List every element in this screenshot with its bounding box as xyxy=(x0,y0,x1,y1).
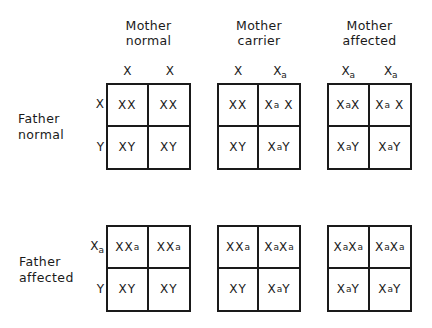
punnett-square: XaXXa XXaYXaY xyxy=(327,83,412,170)
column-title-1: Mother carrier xyxy=(204,18,314,48)
offspring-genotype-cell: XY xyxy=(149,127,190,169)
maternal-allele: X xyxy=(112,64,142,78)
column-title-2: Mother affected xyxy=(315,18,425,48)
offspring-genotype-cell: XaY xyxy=(329,269,370,311)
maternal-allele: Xa xyxy=(265,64,295,82)
paternal-allele: Xa xyxy=(88,239,104,257)
paternal-allele: Y xyxy=(88,282,104,296)
punnett-square: XXXXXYXY xyxy=(106,83,191,170)
paternal-allele: Y xyxy=(88,140,104,154)
column-title-line1: Mother xyxy=(204,18,314,33)
row-title-line2: normal xyxy=(18,127,64,143)
punnett-square: XaXaXaXaXaYXaY xyxy=(327,225,412,312)
offspring-genotype-cell: XaXa xyxy=(370,227,411,269)
offspring-genotype-cell: XaY xyxy=(370,127,411,169)
offspring-genotype-cell: XaY xyxy=(329,127,370,169)
paternal-allele: X xyxy=(88,97,104,111)
maternal-allele: Xa xyxy=(376,64,406,82)
row-title-1: Father affected xyxy=(19,254,74,286)
maternal-allele: X xyxy=(155,64,185,78)
offspring-genotype-cell: XY xyxy=(108,269,149,311)
punnett-square: XXaXaXaXYXaY xyxy=(217,225,301,312)
offspring-genotype-cell: Xa X xyxy=(370,85,411,127)
offspring-genotype-cell: XaY xyxy=(259,269,299,311)
column-title-line1: Mother xyxy=(94,18,204,33)
offspring-genotype-cell: XY xyxy=(219,269,259,311)
column-title-line2: carrier xyxy=(204,33,314,48)
offspring-genotype-cell: XaY xyxy=(259,127,299,169)
offspring-genotype-cell: XXa xyxy=(149,227,190,269)
row-title-line2: affected xyxy=(19,270,74,286)
row-title-line1: Father xyxy=(19,254,74,270)
offspring-genotype-cell: XY xyxy=(149,269,190,311)
punnett-square: XXXa XXYXaY xyxy=(217,83,301,170)
column-title-0: Mother normal xyxy=(94,18,204,48)
offspring-genotype-cell: XaY xyxy=(370,269,411,311)
offspring-genotype-cell: XXa xyxy=(219,227,259,269)
row-title-0: Father normal xyxy=(18,111,64,143)
offspring-genotype-cell: XY xyxy=(219,127,259,169)
offspring-genotype-cell: Xa X xyxy=(259,85,299,127)
offspring-genotype-cell: XXa xyxy=(108,227,149,269)
maternal-allele: X xyxy=(223,64,253,78)
column-title-line2: affected xyxy=(315,33,425,48)
offspring-genotype-cell: XaXa xyxy=(329,227,370,269)
column-title-line2: normal xyxy=(94,33,204,48)
offspring-genotype-cell: XaXa xyxy=(259,227,299,269)
offspring-genotype-cell: XX xyxy=(219,85,259,127)
row-title-line1: Father xyxy=(18,111,64,127)
offspring-genotype-cell: XX xyxy=(108,85,149,127)
offspring-genotype-cell: XX xyxy=(149,85,190,127)
offspring-genotype-cell: XY xyxy=(108,127,149,169)
punnett-square: XXaXXaXYXY xyxy=(106,225,191,312)
maternal-allele: Xa xyxy=(333,64,363,82)
offspring-genotype-cell: XaX xyxy=(329,85,370,127)
column-title-line1: Mother xyxy=(315,18,425,33)
